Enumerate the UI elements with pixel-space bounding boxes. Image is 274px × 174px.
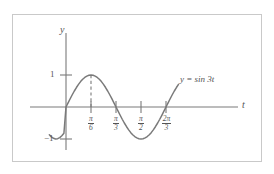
figure-container: y t 1 −1 π 6 π 3 π 2 2π 3 y = sin 3t	[0, 0, 274, 174]
x-tick-label-2pi-over-3: 2π 3	[158, 115, 175, 132]
fraction-pi-over-6: π 6	[88, 115, 94, 132]
t-axis-label: t	[242, 99, 245, 110]
fraction-denominator: 3	[162, 124, 172, 132]
y-tick-label-minus-1: −1	[44, 133, 54, 143]
fraction-pi-over-3: π 3	[113, 115, 119, 132]
fraction-2pi-over-3: 2π 3	[162, 115, 172, 132]
y-tick-label-1: 1	[50, 69, 55, 79]
x-tick-label-pi-over-6: π 6	[84, 115, 98, 132]
fraction-pi-over-2: π 2	[138, 115, 144, 132]
x-tick-label-pi-over-3: π 3	[109, 115, 123, 132]
y-axis-label: y	[60, 24, 64, 35]
curve-equation-label: y = sin 3t	[180, 74, 214, 84]
fraction-denominator: 6	[88, 124, 94, 132]
x-tick-label-pi-over-2: π 2	[134, 115, 148, 132]
sine-curve-layer	[0, 0, 274, 174]
fraction-denominator: 2	[138, 124, 144, 132]
fraction-denominator: 3	[113, 124, 119, 132]
